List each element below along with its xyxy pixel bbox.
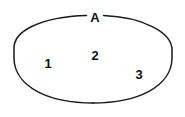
set-diagram-canvas: A 1 2 3 (0, 0, 185, 117)
set-a-label: A (90, 11, 99, 24)
set-member-3: 3 (135, 68, 142, 81)
set-a-ellipse-left-arc (14, 15, 93, 103)
set-member-2: 2 (91, 49, 98, 62)
set-member-1: 1 (44, 57, 51, 70)
set-a-ellipse-right-arc (93, 16, 172, 103)
